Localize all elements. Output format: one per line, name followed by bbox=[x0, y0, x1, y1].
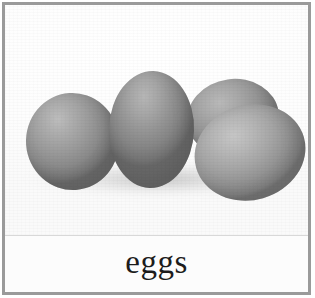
caption-pane: eggs bbox=[5, 236, 308, 292]
card-inner: eggs bbox=[5, 5, 308, 292]
image-caption-card: eggs bbox=[2, 2, 311, 295]
caption-label: eggs bbox=[125, 246, 188, 283]
eggs-photograph bbox=[5, 5, 308, 235]
photo-pane bbox=[5, 5, 308, 236]
